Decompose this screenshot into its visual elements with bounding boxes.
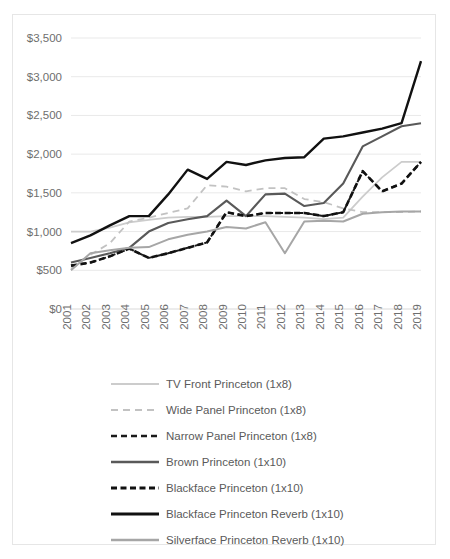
x-axis-tick-label: 2007 — [178, 304, 190, 330]
legend-item[interactable]: Silverface Princeton Reverb (1x10) — [13, 527, 435, 553]
legend-item-label: Narrow Panel Princeton (1x8) — [166, 430, 317, 442]
legend-item-label: Wide Panel Princeton (1x8) — [166, 404, 306, 416]
y-axis-tick-label: $3,000 — [27, 71, 62, 83]
legend-item-label: Silverface Princeton Reverb (1x10) — [166, 534, 344, 546]
y-axis-tick-label: $500 — [36, 264, 62, 276]
legend-item-label: TV Front Princeton (1x8) — [166, 378, 292, 390]
x-axis-tick-label: 2016 — [353, 304, 365, 330]
solid-light-line-icon — [111, 378, 159, 390]
series-line — [71, 162, 421, 232]
y-axis-tick-label: $1,000 — [27, 226, 62, 238]
x-axis-tick-label: 2008 — [197, 304, 209, 330]
legend-item[interactable]: Narrow Panel Princeton (1x8) — [13, 423, 435, 449]
legend-item-label: Brown Princeton (1x10) — [166, 456, 286, 468]
legend-item[interactable]: Blackface Princeton (1x10) — [13, 475, 435, 501]
dashed-light-line-icon — [111, 404, 159, 416]
x-axis-tick-label: 2004 — [119, 304, 131, 330]
dashed-heavy-line-icon — [111, 482, 159, 494]
y-axis-tick-label: $2,000 — [27, 148, 62, 160]
x-axis-tick-label: 2018 — [392, 304, 404, 330]
x-axis-tick-label: 2011 — [255, 305, 267, 330]
series-line — [71, 211, 421, 270]
y-axis-tick-label: $2,500 — [27, 109, 62, 121]
chart-card: $0$500$1,000$1,500$2,000$2,500$3,000$3,5… — [12, 14, 436, 545]
chart-legend: TV Front Princeton (1x8)Wide Panel Princ… — [13, 367, 435, 553]
x-axis-tick-label: 2009 — [217, 304, 229, 330]
legend-item[interactable]: Blackface Princeton Reverb (1x10) — [13, 501, 435, 527]
legend-item[interactable]: Wide Panel Princeton (1x8) — [13, 397, 435, 423]
x-axis-tick-label: 2002 — [80, 304, 92, 330]
series-line — [71, 185, 421, 269]
solid-black-line-icon — [111, 508, 159, 520]
y-axis-tick-label: $3,500 — [27, 32, 62, 44]
x-axis-tick-label: 2019 — [411, 304, 423, 330]
y-axis-tick-label: $1,500 — [27, 187, 62, 199]
solid-gray-line-icon — [111, 534, 159, 546]
legend-item-label: Blackface Princeton (1x10) — [166, 482, 303, 494]
x-axis-tick-label: 2012 — [275, 304, 287, 330]
x-axis-tick-label: 2010 — [236, 304, 248, 330]
x-axis-tick-label: 2015 — [333, 304, 345, 330]
legend-item[interactable]: TV Front Princeton (1x8) — [13, 371, 435, 397]
legend-item-label: Blackface Princeton Reverb (1x10) — [166, 508, 344, 520]
x-axis-tick-label: 2017 — [372, 304, 384, 330]
x-axis-tick-label: 2013 — [294, 304, 306, 330]
x-axis-tick-label: 2005 — [139, 304, 151, 330]
x-axis-tick-label: 2001 — [61, 304, 73, 330]
line-chart: $0$500$1,000$1,500$2,000$2,500$3,000$3,5… — [13, 15, 435, 365]
solid-dark-line-icon — [111, 456, 159, 468]
legend-item[interactable]: Brown Princeton (1x10) — [13, 449, 435, 475]
x-axis-tick-label: 2003 — [100, 304, 112, 330]
plot-area: $0$500$1,000$1,500$2,000$2,500$3,000$3,5… — [13, 15, 435, 365]
x-axis-tick-label: 2014 — [314, 304, 326, 330]
x-axis-tick-label: 2006 — [158, 304, 170, 330]
dashed-dark-line-icon — [111, 430, 159, 442]
